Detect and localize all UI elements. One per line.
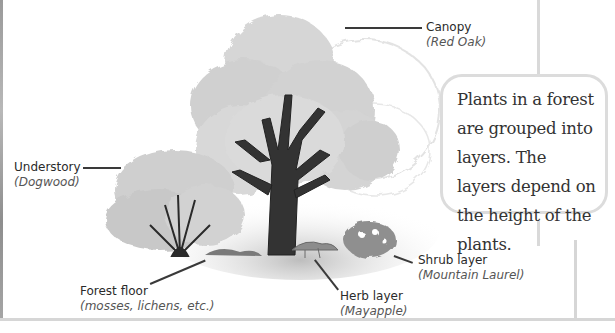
callout-connector-bottom <box>537 221 540 246</box>
shrub-layer-plants <box>344 222 396 258</box>
canopy-leader-line <box>345 27 422 29</box>
callout-text: Plants in a forest are grouped into laye… <box>457 85 599 259</box>
label-herb-layer-name: Herb layer <box>340 289 403 303</box>
label-herb-layer: Herb layer (Mayapple) <box>340 289 407 319</box>
label-canopy: Canopy (Red Oak) <box>426 20 486 50</box>
callout-connector-top <box>537 0 540 76</box>
label-forest-floor: Forest floor (mosses, lichens, etc.) <box>80 284 214 314</box>
label-shrub-layer-example: (Mountain Laurel) <box>418 268 524 283</box>
label-herb-layer-example: (Mayapple) <box>340 304 407 319</box>
label-forest-floor-name: Forest floor <box>80 284 148 298</box>
right-frame-line <box>574 240 577 320</box>
label-canopy-example: (Red Oak) <box>426 35 486 50</box>
callout-box: Plants in a forest are grouped into laye… <box>440 74 608 214</box>
label-understory: Understory (Dogwood) <box>14 160 81 190</box>
understory-leader-line <box>83 167 121 169</box>
label-canopy-name: Canopy <box>426 20 471 34</box>
bottom-border <box>0 318 615 333</box>
label-forest-floor-example: (mosses, lichens, etc.) <box>80 299 214 314</box>
label-understory-example: (Dogwood) <box>14 175 81 190</box>
label-understory-name: Understory <box>14 160 81 174</box>
